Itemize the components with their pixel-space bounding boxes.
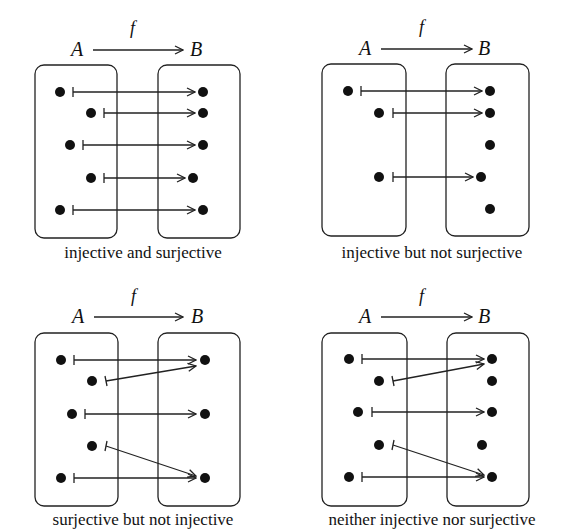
caption: neither injective nor surjective [287,510,577,530]
domain-label: A [71,38,83,61]
mapping-arrows [74,355,196,483]
mapping-arrows [361,86,482,182]
domain-set-box [35,333,118,506]
caption: surjective but not injective [0,510,288,530]
domain-set-box [35,65,117,238]
codomain-set-box [158,333,240,506]
codomain-label: B [191,305,203,328]
mapping-arrows [362,354,484,482]
function-label: f [419,17,424,38]
function-label: f [130,18,135,39]
mapping-arrows [73,87,195,215]
codomain-label: B [190,38,202,61]
codomain-label: B [478,37,490,60]
domain-label: A [72,305,84,328]
domain-set-box [322,64,406,236]
codomain-label: B [478,305,490,328]
domain-label: A [359,37,371,60]
panel-injective-not-surjective [322,49,529,236]
caption: injective but not surjective [287,243,577,263]
function-label: f [131,286,136,307]
domain-label: A [359,305,371,328]
function-diagrams [0,0,579,530]
caption: injective and surjective [0,243,288,263]
function-label: f [419,286,424,307]
